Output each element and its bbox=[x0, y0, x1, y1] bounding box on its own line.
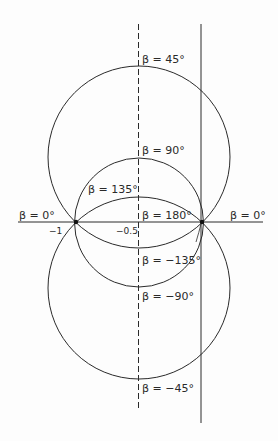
label-beta-0-right: β = 0° bbox=[230, 209, 266, 222]
label-beta-minus-90: β = −90° bbox=[142, 290, 194, 303]
tick-minus-1: −1 bbox=[49, 226, 62, 236]
label-beta-180: β = 180° bbox=[142, 209, 192, 222]
point-0 bbox=[200, 220, 204, 224]
circle-diagram: β = 45° β = 90° β = 135° β = 180° β = 0°… bbox=[0, 0, 278, 441]
label-beta-135: β = 135° bbox=[88, 183, 138, 196]
point-minus-1 bbox=[74, 220, 78, 224]
label-beta-0-left: β = 0° bbox=[19, 209, 55, 222]
diagram: β = 45° β = 90° β = 135° β = 180° β = 0°… bbox=[0, 0, 278, 441]
label-beta-90: β = 90° bbox=[142, 144, 185, 157]
label-beta-minus-135: β = −135° bbox=[142, 254, 201, 267]
label-beta-45: β = 45° bbox=[142, 53, 185, 66]
tick-minus-0.5: −0.5 bbox=[116, 226, 138, 236]
label-beta-minus-45: β = −45° bbox=[142, 382, 194, 395]
